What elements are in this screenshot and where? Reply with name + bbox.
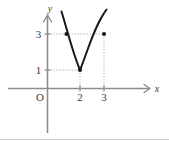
marked-point-left [64, 32, 68, 36]
x-tick-label-2: 2 [77, 91, 83, 103]
marked-points-group [64, 32, 106, 72]
parabola-curve [62, 10, 107, 71]
marked-point-right [102, 32, 106, 36]
marked-point-vertex [78, 68, 82, 72]
origin-label: O [36, 91, 44, 103]
y-tick-label-1: 1 [36, 64, 42, 76]
y-axis-label: y [47, 3, 53, 14]
tick-marks-group [45, 34, 105, 92]
axes-group [8, 15, 150, 133]
bottom-divider [0, 139, 169, 140]
parabola-curve-group [62, 10, 107, 71]
graph-canvas: 3 1 2 3 O x y [0, 0, 169, 143]
parabola-figure: 3 1 2 3 O x y [0, 0, 169, 143]
y-tick-label-3: 3 [36, 28, 42, 40]
x-axis-label: x [154, 83, 160, 94]
x-tick-label-3: 3 [101, 91, 107, 103]
